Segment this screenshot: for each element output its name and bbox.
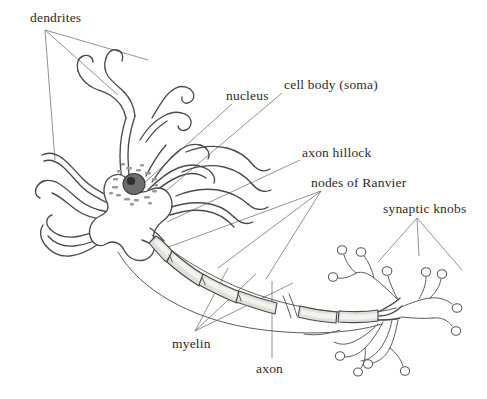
label-myelin: myelin [172,336,211,351]
axon-with-myelin [118,228,396,333]
label-cell-body: cell body (soma) [284,77,378,92]
leader-lines-synaptic-knobs [378,218,462,270]
synaptic-knob [452,304,462,313]
leader-line-axon-hillock [167,160,300,222]
label-synaptic-knobs: synaptic knobs [383,201,466,216]
synaptic-knob [421,268,430,276]
synaptic-knob [328,273,337,281]
leader-line-cell-body [160,93,282,196]
synaptic-knob [437,270,446,278]
label-axon-hillock: axon hillock [302,145,372,160]
label-nucleus: nucleus [226,88,269,103]
synaptic-knob [335,352,344,360]
synaptic-knob [382,267,392,276]
label-nodes-of-ranvier: nodes of Ranvier [311,175,407,190]
synaptic-knob [356,248,366,256]
synaptic-knob [400,367,409,375]
label-axon: axon [256,361,283,376]
label-dendrites: dendrites [30,10,81,25]
synaptic-knob [337,246,346,254]
neuron-diagram: dendrites nucleus cell body (soma) axon … [0,0,487,399]
synaptic-knob [354,368,363,376]
leader-lines-dendrites [45,30,148,160]
synaptic-knob [451,327,460,335]
synaptic-knob [363,360,372,368]
